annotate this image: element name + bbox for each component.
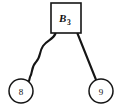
edge-block-to-leaf-right [78,34,97,82]
edge-block-to-leaf-left [29,34,56,82]
node-leaf-9-label: 9 [99,87,104,97]
graph-figure: B 3 8 9 [0,0,121,109]
node-leaf-8-label: 8 [19,87,24,97]
node-block-label-subscript: 3 [67,18,71,27]
node-block-label: B [58,12,66,24]
graph-canvas: B 3 8 9 [0,0,121,109]
